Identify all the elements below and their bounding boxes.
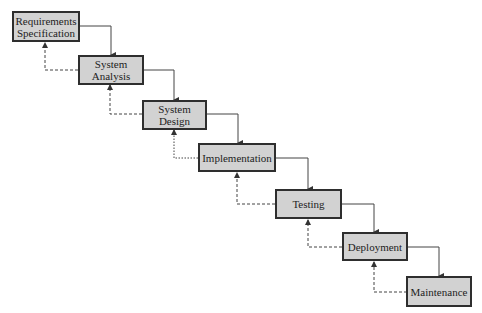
forward-arrow [341, 204, 374, 232]
forward-arrow [79, 26, 111, 55]
forward-arrow [206, 114, 238, 143]
forward-arrow [143, 70, 174, 100]
stage-requirements-specification: Requirements Specification [12, 11, 80, 42]
feedback-arrow [237, 173, 275, 204]
feedback-arrow [374, 262, 407, 292]
stage-testing: Testing [275, 189, 342, 219]
forward-arrow [275, 158, 308, 189]
feedback-arrow [308, 220, 342, 247]
forward-arrow [407, 247, 439, 276]
stage-maintenance: Maintenance [406, 276, 472, 307]
feedback-arrow [110, 85, 142, 114]
stage-system-design: System Design [142, 100, 207, 130]
stage-system-analysis: System Analysis [78, 55, 144, 85]
feedback-arrow [174, 130, 198, 158]
stage-implementation: Implementation [198, 143, 276, 172]
stage-deployment: Deployment [342, 232, 408, 261]
feedback-arrow [45, 43, 78, 70]
